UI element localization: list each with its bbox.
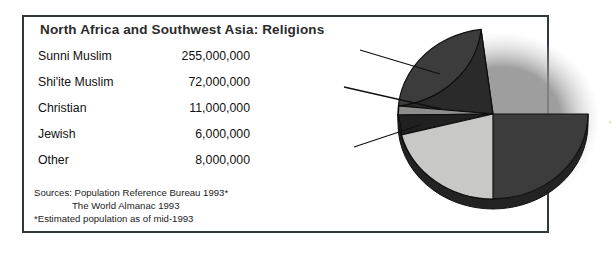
row-value: 6,000,000 bbox=[150, 127, 250, 141]
row-value: 72,000,000 bbox=[150, 75, 250, 89]
callout-other: Other 2% bbox=[602, 147, 611, 175]
row-label: Jewish bbox=[38, 127, 150, 141]
sources-note: Sources: Population Reference Bureau 199… bbox=[34, 186, 228, 226]
table-row: Sunni Muslim 255,000,000 bbox=[38, 49, 253, 75]
row-label: Christian bbox=[38, 101, 150, 115]
sources-line-3: *Estimated population as of mid-1993 bbox=[34, 212, 228, 225]
page-title: North Africa and Southwest Asia: Religio… bbox=[40, 22, 324, 37]
sources-line-2: The World Almanac 1993 bbox=[34, 199, 228, 212]
callout-jewish: Jewish 2% bbox=[596, 113, 611, 141]
callout-christian: Christian 3% bbox=[598, 79, 611, 107]
religions-figure: North Africa and Southwest Asia: Religio… bbox=[0, 0, 611, 254]
table-row: Christian 11,000,000 bbox=[38, 101, 253, 127]
callout-other-percent: 2% bbox=[602, 161, 611, 175]
religion-data-table: Sunni Muslim 255,000,000 Shi'ite Muslim … bbox=[38, 49, 253, 179]
table-row: Shi'ite Muslim 72,000,000 bbox=[38, 75, 253, 101]
row-label: Sunni Muslim bbox=[38, 49, 150, 63]
table-row: Jewish 6,000,000 bbox=[38, 127, 253, 153]
row-value: 11,000,000 bbox=[150, 101, 250, 115]
row-value: 255,000,000 bbox=[150, 49, 250, 63]
row-label: Shi'ite Muslim bbox=[38, 75, 150, 89]
row-label: Other bbox=[38, 153, 150, 167]
row-value: 8,000,000 bbox=[150, 153, 250, 167]
sources-line-1: Sources: Population Reference Bureau 199… bbox=[34, 186, 228, 199]
callout-christian-percent: 3% bbox=[598, 93, 611, 107]
callout-jewish-percent: 2% bbox=[596, 127, 611, 141]
pie-chart: Christian 3% Jewish 2% Other 2% Sunni Mu… bbox=[290, 10, 611, 240]
pie-chart-svg bbox=[290, 10, 611, 240]
table-row: Other 8,000,000 bbox=[38, 153, 253, 179]
